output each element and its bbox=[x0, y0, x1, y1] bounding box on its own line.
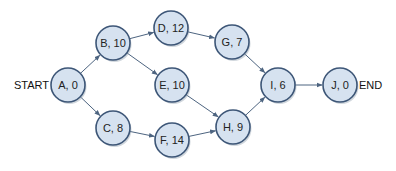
edge-h-i bbox=[245, 97, 264, 115]
edge-d-g bbox=[188, 32, 215, 38]
activity-network-diagram: A, 0B, 10C, 8D, 12E, 10F, 14G, 7H, 9I, 6… bbox=[0, 0, 396, 171]
node-label: A, 0 bbox=[58, 79, 78, 91]
node-label: F, 14 bbox=[160, 134, 184, 146]
edge-e-h bbox=[186, 95, 218, 117]
node-label: E, 10 bbox=[159, 79, 185, 91]
edge-b-d bbox=[129, 33, 153, 39]
edge-f-h bbox=[189, 131, 216, 137]
node-j: J, 0 bbox=[323, 68, 359, 104]
node-d: D, 12 bbox=[154, 11, 190, 47]
node-label: D, 12 bbox=[158, 22, 184, 34]
node-b: B, 10 bbox=[96, 26, 132, 62]
end-label: END bbox=[359, 79, 382, 91]
edge-c-f bbox=[130, 131, 155, 136]
node-label: H, 9 bbox=[223, 121, 243, 133]
node-a: A, 0 bbox=[51, 68, 87, 104]
edge-a-c bbox=[80, 97, 100, 116]
node-g: G, 7 bbox=[215, 25, 251, 61]
node-c: C, 8 bbox=[96, 111, 132, 147]
node-label: B, 10 bbox=[100, 37, 126, 49]
node-label: I, 6 bbox=[270, 79, 285, 91]
edge-b-e bbox=[127, 53, 157, 75]
node-h: H, 9 bbox=[216, 110, 252, 146]
node-i: I, 6 bbox=[261, 68, 297, 104]
node-e: E, 10 bbox=[155, 68, 191, 104]
node-label: G, 7 bbox=[222, 36, 243, 48]
node-f: F, 14 bbox=[155, 123, 191, 159]
edge-a-b bbox=[80, 55, 99, 73]
edge-g-i bbox=[244, 54, 264, 73]
node-label: C, 8 bbox=[103, 122, 123, 134]
node-label: J, 0 bbox=[331, 79, 349, 91]
start-label: START bbox=[14, 79, 49, 91]
